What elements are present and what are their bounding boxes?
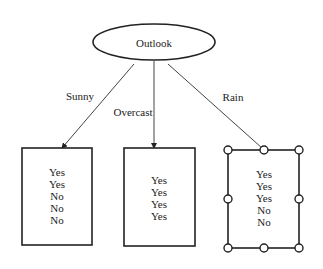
- leaf-value: No: [257, 204, 271, 216]
- leaf-value: Yes: [151, 186, 167, 198]
- leaf-value: Yes: [151, 174, 167, 186]
- edge-label-overcast: Overcast: [113, 106, 152, 118]
- edge-overcast: Overcast: [113, 61, 154, 148]
- leaf-value: No: [50, 214, 64, 226]
- leaf-node-overcast[interactable]: Yes Yes Yes Yes: [124, 148, 195, 246]
- root-label: Outlook: [136, 37, 173, 49]
- edge-label-sunny: Sunny: [66, 90, 95, 102]
- resize-handle-bottom-right[interactable]: [295, 244, 303, 252]
- leaf-value: Yes: [151, 198, 167, 210]
- leaf-value: Yes: [256, 180, 272, 192]
- resize-handle-bottom-left[interactable]: [224, 244, 232, 252]
- leaf-value: Yes: [49, 178, 65, 190]
- leaf-value: No: [50, 190, 64, 202]
- edge-label-rain: Rain: [223, 91, 244, 103]
- leaf-node-rain[interactable]: Yes Yes Yes No No: [224, 146, 303, 252]
- leaf-node-sunny[interactable]: Yes Yes No No No: [22, 148, 92, 245]
- leaf-value: Yes: [49, 166, 65, 178]
- decision-tree-diagram: Outlook Sunny Overcast Rain Yes Yes No N…: [0, 0, 323, 269]
- resize-handle-right[interactable]: [295, 195, 303, 203]
- resize-handle-left[interactable]: [224, 195, 232, 203]
- leaf-value: No: [50, 202, 64, 214]
- leaf-value: Yes: [256, 192, 272, 204]
- resize-handle-bottom[interactable]: [260, 244, 268, 252]
- leaf-value: Yes: [151, 210, 167, 222]
- leaf-value: Yes: [256, 168, 272, 180]
- edge-rain: Rain: [168, 64, 262, 148]
- resize-handle-top-left[interactable]: [224, 146, 232, 154]
- leaf-value: No: [257, 216, 271, 228]
- root-node-outlook[interactable]: Outlook: [93, 24, 215, 60]
- resize-handle-top-right[interactable]: [295, 146, 303, 154]
- resize-handle-top[interactable]: [260, 146, 268, 154]
